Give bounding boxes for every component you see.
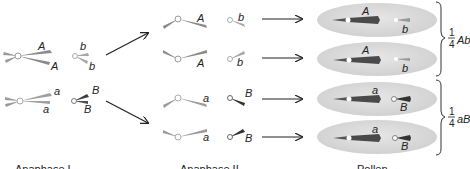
allele-label: a [203,131,209,143]
ratio-Ab: 1 4 Ab [448,27,470,50]
allele-label: b [80,40,86,52]
allele-label: a [203,92,209,104]
anaphase-2-group: A b A b a B a [163,11,252,144]
allele-label: b [238,11,244,23]
svg-text:1: 1 [449,27,455,38]
brace-icon [436,80,445,155]
anaphase-2-row: A b [163,50,245,69]
chromosome-large-A-pair [3,50,52,65]
chromosome-small-b-pair [73,53,90,64]
arrow-up-right-icon [106,33,148,55]
allele-label: a [372,84,378,96]
allele-label: a [372,123,378,135]
allele-label: B [84,103,91,115]
allele-label: A [50,60,58,72]
pollen-cell: a B [317,82,437,116]
anaphase-1-group: A A b b a a B B [3,40,99,115]
meiosis-diagram: A A b b a a B B [0,0,470,169]
stage-label-anaphase-1: Anaphase I [15,163,71,169]
allele-label: B [401,140,408,152]
stage-label-anaphase-2: Anaphase II [180,163,239,169]
allele-label: B [245,132,252,144]
stage-label-pollen: Pollen [357,163,388,169]
allele-label: A [361,5,369,17]
allele-label: a [54,85,60,97]
genotype-label: Ab [456,34,470,46]
allele-label: b [402,23,408,35]
pollen-cell: A b [317,42,437,76]
pollen-cell: A b [317,3,437,37]
allele-label: a [43,103,49,115]
ratio-aB: 1 4 aB [448,106,470,129]
anaphase-2-row: A b [163,11,245,29]
genotype-label: aB [457,113,470,125]
allele-label: b [89,60,95,72]
allele-label: B [245,87,252,99]
svg-text:4: 4 [449,39,455,50]
allele-label: A [196,57,204,69]
brace-icon [436,2,445,76]
svg-text:1: 1 [449,106,455,117]
svg-text:4: 4 [449,118,455,129]
pollen-cell: a B [317,120,437,154]
allele-label: b [402,62,408,74]
pollen-group: A b A b a B [317,3,437,154]
allele-label: A [361,44,369,56]
allele-label: B [400,101,407,113]
arrow-down-right-icon [106,101,148,123]
allele-label: A [37,40,45,52]
anaphase-2-row: a B [163,87,252,108]
allele-label: A [196,12,204,24]
allele-label: b [237,56,243,68]
allele-label: B [92,84,99,96]
anaphase-2-row: a B [163,129,252,144]
